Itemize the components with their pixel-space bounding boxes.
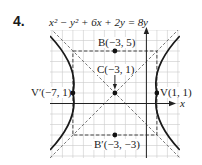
c-label-arrow [113, 74, 117, 90]
label-B: B(−3, 5) [98, 36, 136, 49]
label-V-prime: V′(−7, 1) [31, 86, 72, 99]
hyperbola-graph: x² − y² + 6x + 2y = 8 y x B(−3, 5) C(−3,… [0, 0, 202, 165]
point-V [155, 91, 160, 96]
point-C [113, 91, 118, 96]
label-C: C(−3, 1) [97, 63, 135, 76]
equation: x² − y² + 6x + 2y = 8 [48, 16, 144, 28]
label-V: V(1, 1) [160, 86, 192, 99]
y-axis-label: y [142, 16, 148, 28]
label-B-prime: B′(−3, −3) [94, 138, 140, 151]
point-B [113, 49, 118, 54]
point-B-prime [113, 133, 118, 138]
x-axis-label: x [179, 97, 185, 109]
